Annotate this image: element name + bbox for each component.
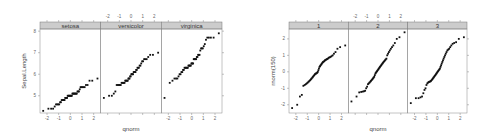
data-point <box>187 67 189 69</box>
data-point <box>387 53 389 55</box>
data-point <box>113 93 115 95</box>
x-tick-label: -1 <box>117 14 121 19</box>
data-point <box>386 58 388 60</box>
data-point <box>192 63 194 65</box>
panel-frame <box>161 29 222 113</box>
data-point <box>91 80 93 82</box>
x-tick-label: 1 <box>388 14 391 19</box>
data-point <box>296 104 298 106</box>
data-point <box>204 43 206 45</box>
strip-label: versicolor <box>118 23 144 29</box>
data-point <box>365 87 367 89</box>
panel-3: 3-2-1012 <box>408 20 467 121</box>
data-point <box>455 41 457 43</box>
data-point <box>203 45 205 47</box>
data-point <box>373 76 375 78</box>
x-tick-label: 2 <box>340 116 343 121</box>
y-tick-label: 7 <box>33 50 36 55</box>
data-point <box>130 75 132 77</box>
data-point <box>66 97 68 99</box>
data-point <box>463 36 465 38</box>
data-point <box>396 38 398 40</box>
x-axis-title: qnorm <box>369 126 386 132</box>
x-tick-label: 2 <box>214 116 217 121</box>
x-tick-label: 2 <box>92 116 95 121</box>
data-point <box>386 54 388 56</box>
strip-label: virginica <box>181 23 204 29</box>
data-point <box>71 95 73 97</box>
x-tick-label: -2 <box>353 14 357 19</box>
panel-frame <box>40 29 101 113</box>
data-point <box>190 65 192 67</box>
x-tick-label: 0 <box>436 116 439 121</box>
data-point <box>458 38 460 40</box>
data-point <box>199 50 201 52</box>
data-point <box>299 96 301 98</box>
data-point <box>442 59 444 61</box>
x-tick-label: -2 <box>294 116 298 121</box>
y-tick-label: -1 <box>281 86 285 91</box>
data-point <box>208 37 210 39</box>
data-point <box>443 56 445 58</box>
x-tick-label: -1 <box>178 116 182 121</box>
data-point <box>202 47 204 49</box>
data-point <box>147 56 149 58</box>
x-tick-label: 0 <box>130 14 133 19</box>
panel-versicolor: versicolor-2-1012 <box>101 14 162 115</box>
data-point <box>205 39 207 41</box>
data-point <box>439 68 441 70</box>
panel-1: 1-2-1012 <box>289 20 348 121</box>
data-point <box>358 92 360 94</box>
data-point <box>52 108 54 110</box>
data-point <box>291 107 293 109</box>
x-tick-label: 1 <box>202 116 205 121</box>
x-tick-label: 2 <box>400 14 403 19</box>
x-tick-label: 2 <box>153 14 156 19</box>
data-point <box>440 66 442 68</box>
x-tick-label: -1 <box>365 14 369 19</box>
data-point <box>176 78 178 80</box>
data-point <box>140 63 142 65</box>
data-point <box>50 108 52 110</box>
x-tick-label: 1 <box>329 116 332 121</box>
x-tick-label: 1 <box>141 14 144 19</box>
data-point <box>64 99 66 101</box>
data-point <box>317 69 319 71</box>
strip-label: setosa <box>61 23 79 29</box>
data-point <box>389 50 391 52</box>
data-point <box>135 71 137 73</box>
x-tick-label: 0 <box>190 116 193 121</box>
data-point <box>164 97 166 99</box>
data-point <box>426 84 428 86</box>
data-point <box>129 78 131 80</box>
panel-virginica: virginica-2-1012 <box>161 20 222 121</box>
sepal-length-qq-chart: setosa-2-1012versicolor-2-1012virginica-… <box>21 14 224 132</box>
data-point <box>58 103 60 105</box>
y-tick-label: 1 <box>282 53 285 58</box>
data-point <box>127 80 129 82</box>
x-tick-label: 2 <box>459 116 462 121</box>
y-axis-title: rnorm(150) <box>270 56 276 86</box>
data-point <box>333 53 335 55</box>
y-tick-label: -2 <box>281 102 285 107</box>
data-point <box>42 110 44 112</box>
data-point <box>351 101 353 103</box>
data-point <box>180 73 182 75</box>
data-point <box>392 45 394 47</box>
y-tick-label: 6 <box>33 72 36 77</box>
data-point <box>449 46 451 48</box>
data-point <box>172 80 174 82</box>
data-point <box>197 56 199 58</box>
rnorm-qq-chart: 1-2-10122-2-10123-2-1012-2-1012qnormrnor… <box>270 14 469 132</box>
data-point <box>339 46 341 48</box>
data-point <box>87 84 89 86</box>
panel-2: 2-2-1012 <box>348 14 407 115</box>
data-point <box>111 95 113 97</box>
data-point <box>120 84 122 86</box>
y-axis-title: Sepal.Length <box>21 53 27 88</box>
data-point <box>424 89 426 91</box>
data-point <box>332 54 334 56</box>
data-point <box>415 97 417 99</box>
data-point <box>97 78 99 80</box>
data-point <box>356 96 358 98</box>
